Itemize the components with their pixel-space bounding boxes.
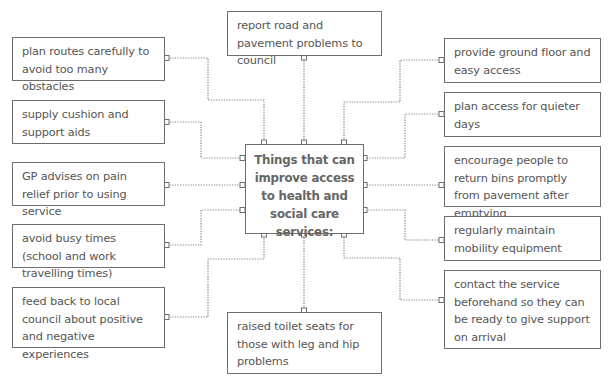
node-label: avoid busy times (school and work travel… — [22, 232, 116, 280]
center-topic-box: Things that can improve access to health… — [245, 144, 364, 234]
spider-diagram: Things that can improve access to health… — [0, 0, 610, 383]
connector-right-4 — [366, 210, 441, 240]
node-label: contact the service beforehand so they c… — [454, 278, 590, 344]
left-node-box-5: feed back to local council about positiv… — [12, 287, 165, 348]
node-label: supply cushion and support aids — [22, 108, 129, 139]
node-label: plan access for quieter days — [454, 100, 580, 131]
node-label: raised toilet seats for those with leg a… — [237, 320, 359, 368]
right-node-box-1: provide ground floor and easy access — [444, 38, 601, 83]
connector-left-5 — [167, 235, 264, 317]
center-topic-label: Things that can improve access to health… — [254, 153, 355, 239]
right-node-box-4: regularly maintain mobility equipment — [444, 216, 601, 261]
left-node-box-3: GP advises on pain relief prior to using… — [12, 162, 165, 206]
right-node-box-2: plan access for quieter days — [444, 92, 601, 137]
connector-right-1 — [344, 60, 441, 142]
node-label: regularly maintain mobility equipment — [454, 224, 562, 255]
left-node-box-1: plan routes carefully to avoid too many … — [12, 37, 165, 81]
right-node-box-3: encourage people to return bins promptly… — [444, 146, 601, 207]
left-node-box-2: supply cushion and support aids — [12, 100, 165, 144]
node-label: provide ground floor and easy access — [454, 46, 590, 77]
connector-right-5 — [344, 235, 441, 300]
top-node-box: report road and pavement problems to cou… — [227, 11, 382, 56]
right-node-box-5: contact the service beforehand so they c… — [444, 270, 601, 349]
connector-left-4 — [167, 210, 242, 245]
connector-left-2 — [167, 122, 242, 158]
bottom-node-box: raised toilet seats for those with leg a… — [227, 312, 382, 374]
connector-right-2 — [366, 114, 441, 158]
connector-left-1 — [167, 58, 264, 142]
left-node-box-4: avoid busy times (school and work travel… — [12, 224, 165, 268]
